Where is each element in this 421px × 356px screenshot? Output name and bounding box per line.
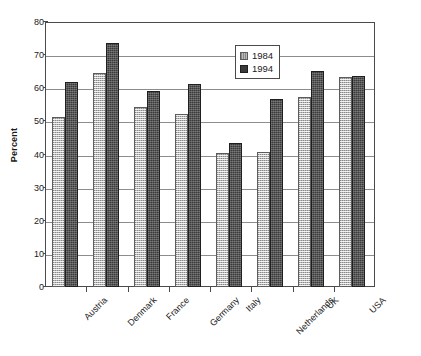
x-axis-label-denmark: Denmark bbox=[126, 295, 159, 328]
bar-netherlands-1984 bbox=[257, 152, 270, 287]
legend-label: 1994 bbox=[252, 63, 273, 74]
bar-group bbox=[333, 23, 374, 287]
y-axis-tick-label: 70 bbox=[4, 50, 44, 60]
x-axis-tick-mark bbox=[293, 287, 294, 292]
bar-group bbox=[46, 23, 87, 287]
legend-item: 1994 bbox=[240, 62, 273, 75]
bar-denmark-1994 bbox=[106, 43, 119, 287]
legend-swatch-1994-icon bbox=[240, 65, 248, 73]
y-axis-tick-label: 10 bbox=[4, 249, 44, 259]
bar-denmark-1984 bbox=[93, 73, 106, 288]
x-axis-label-germany: Germany bbox=[208, 295, 241, 328]
bar-germany-1994 bbox=[188, 84, 201, 287]
legend-item: 1984 bbox=[240, 49, 273, 62]
bar-uk-1994 bbox=[311, 71, 324, 287]
x-axis-tick-mark bbox=[169, 287, 170, 292]
bar-group bbox=[128, 23, 169, 287]
bar-austria-1984 bbox=[52, 117, 65, 287]
bar-netherlands-1994 bbox=[270, 99, 283, 287]
bar-group bbox=[87, 23, 128, 287]
x-axis-label-usa: USA bbox=[368, 295, 388, 315]
legend-swatch-1984-icon bbox=[240, 52, 248, 60]
x-axis-tick-mark bbox=[86, 287, 87, 292]
y-axis-tick-label: 80 bbox=[4, 17, 44, 27]
x-axis-tick-mark bbox=[210, 287, 211, 292]
bar-italy-1994 bbox=[229, 143, 242, 287]
bar-chart: Percent 01020304050607080 AustriaDenmark… bbox=[0, 0, 421, 356]
x-axis-tick-mark bbox=[128, 287, 129, 292]
x-axis-label-italy: Italy bbox=[243, 295, 262, 314]
chart-legend: 1984 1994 bbox=[235, 45, 280, 79]
x-axis-tick-mark bbox=[251, 287, 252, 292]
bar-group bbox=[292, 23, 333, 287]
y-axis-tick-label: 50 bbox=[4, 116, 44, 126]
y-axis-tick-label: 30 bbox=[4, 183, 44, 193]
legend-label: 1984 bbox=[252, 50, 273, 61]
x-axis-label-france: France bbox=[164, 295, 191, 322]
bar-group bbox=[169, 23, 210, 287]
y-axis-tick-label: 0 bbox=[4, 282, 44, 292]
bar-france-1984 bbox=[134, 107, 147, 287]
y-axis-ticks: 01020304050607080 bbox=[0, 22, 44, 287]
x-axis: AustriaDenmarkFranceGermanyItalyNetherla… bbox=[45, 287, 375, 347]
bar-austria-1994 bbox=[65, 82, 78, 287]
bar-germany-1984 bbox=[175, 114, 188, 287]
bar-usa-1984 bbox=[339, 77, 352, 287]
y-axis-tick-label: 60 bbox=[4, 83, 44, 93]
bar-uk-1984 bbox=[298, 97, 311, 287]
x-axis-tick-mark bbox=[334, 287, 335, 292]
y-axis-tick-label: 40 bbox=[4, 150, 44, 160]
x-axis-label-austria: Austria bbox=[82, 295, 109, 322]
y-axis-tick-label: 20 bbox=[4, 216, 44, 226]
bar-usa-1994 bbox=[352, 76, 365, 287]
bars-layer bbox=[46, 23, 374, 287]
bar-italy-1984 bbox=[216, 153, 229, 287]
bar-france-1994 bbox=[147, 91, 160, 287]
